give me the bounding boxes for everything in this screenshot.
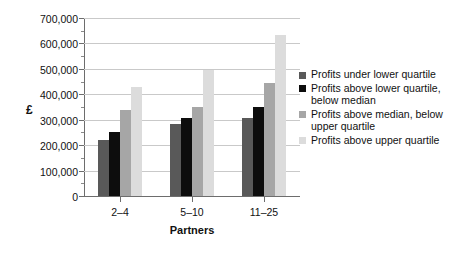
plot-area: 2–45–1011–25 Partners [84,18,300,196]
legend-item-label: Profits above median, below upper quarti… [311,108,443,133]
gridline [84,69,300,70]
y-axis-tick [79,18,84,19]
y-axis-minor-tick [81,183,84,184]
y-axis-tick [79,94,84,95]
y-axis-tick-label-text: 600,000 [40,38,78,50]
y-axis-tick-label-text: 100,000 [40,166,78,178]
y-axis-minor-tick [81,132,84,133]
x-axis-tick [192,197,193,202]
y-axis-tick [79,145,84,146]
legend-swatch-icon [299,72,306,79]
legend-item: Profits above upper quartile [299,134,474,147]
bar [192,107,203,196]
bar-chart: £ 0100,000200,000300,000400,000500,00060… [0,0,474,253]
legend-item: Profits above lower quartile, below medi… [299,82,474,107]
y-axis-tick [79,171,84,172]
bar [253,107,264,196]
x-axis-category-label: 2–4 [84,206,156,218]
legend-swatch-icon [299,85,306,92]
x-axis-tick [264,197,265,202]
x-axis-tick [120,197,121,202]
y-axis-tick [79,69,84,70]
bar [120,110,131,196]
y-axis-minor-tick [81,82,84,83]
y-axis-minor-tick [81,107,84,108]
gridline [84,43,300,44]
legend: Profits under lower quartileProfits abov… [299,68,474,148]
y-axis-tick-label-text: 0 [72,191,78,203]
y-axis-title: £ [26,103,33,117]
bar [98,140,109,196]
legend-swatch-icon [299,111,306,118]
y-axis-tick-label-text: 500,000 [40,64,78,76]
y-axis-minor-tick [81,158,84,159]
bar [203,70,214,196]
y-axis-tick [79,43,84,44]
bar [131,87,142,196]
x-axis-category-label: 5–10 [156,206,228,218]
y-axis-tick-label-text: 700,000 [40,13,78,25]
x-axis-category-label: 11–25 [228,206,300,218]
bar [264,83,275,196]
legend-item: Profits under lower quartile [299,68,474,81]
bar [170,124,181,196]
legend-item-label: Profits above lower quartile, below medi… [311,82,441,107]
bar [109,132,120,196]
y-axis-minor-tick [81,56,84,57]
legend-item-label: Profits under lower quartile [311,68,436,81]
y-axis-tick-label-text: 200,000 [40,140,78,152]
legend-item: Profits above median, below upper quarti… [299,108,474,133]
y-axis-tick-label-text: 300,000 [40,115,78,127]
y-axis-tick [79,120,84,121]
y-axis-tick-label-text: 400,000 [40,89,78,101]
x-axis-title: Partners [84,224,300,236]
y-axis-tick [79,196,84,197]
bar [275,35,286,196]
y-axis-minor-tick [81,31,84,32]
legend-item-label: Profits above upper quartile [311,134,439,147]
bar [181,118,192,196]
gridline [84,18,300,19]
bar [242,118,253,196]
legend-swatch-icon [299,137,306,144]
